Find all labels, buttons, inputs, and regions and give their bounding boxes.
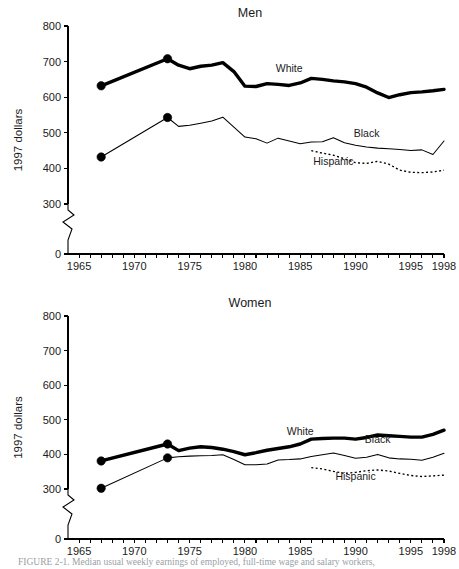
- series-label-black: Black: [365, 433, 391, 445]
- series-marker-black: [163, 113, 171, 121]
- panel-title: Men: [238, 6, 262, 20]
- series-marker-white: [163, 55, 171, 63]
- x-tick-label: 1980: [233, 545, 257, 555]
- y-tick-label: 400: [43, 448, 61, 460]
- x-tick-label: 1965: [67, 260, 91, 272]
- x-tick-label: 1990: [343, 545, 367, 555]
- y-axis-break-mark: [63, 489, 74, 539]
- y-axis-break-mark: [63, 204, 74, 254]
- series-label-white: White: [276, 62, 303, 74]
- series-marker-black: [97, 484, 105, 492]
- y-tick-label: 0: [55, 533, 61, 545]
- y-tick-label: 400: [43, 162, 61, 174]
- x-tick-label: 1985: [288, 260, 312, 272]
- y-tick-label: 600: [43, 91, 61, 103]
- chart-svg-women: 0300400500600700800196519701975198019851…: [0, 290, 459, 555]
- x-tick-label: 1975: [177, 545, 201, 555]
- y-axis-title: 1997 dollars: [12, 108, 24, 171]
- series-line-white: [101, 430, 444, 461]
- x-tick-label: 1970: [122, 260, 146, 272]
- x-tick-label: 1995: [399, 545, 423, 555]
- chart-panel-men: 0300400500600700800196519701975198019851…: [0, 0, 459, 290]
- x-tick-label: 1965: [67, 545, 91, 555]
- series-marker-white: [97, 82, 105, 90]
- panel-title: Women: [229, 296, 272, 310]
- series-marker-black: [163, 454, 171, 462]
- x-tick-label: 1975: [177, 260, 201, 272]
- series-marker-black: [97, 153, 105, 161]
- x-tick-label: 1998: [432, 260, 456, 272]
- x-tick-label: 1990: [343, 260, 367, 272]
- figure-container: 0300400500600700800196519701975198019851…: [0, 0, 459, 569]
- y-tick-label: 800: [43, 20, 61, 32]
- y-tick-label: 700: [43, 56, 61, 68]
- series-marker-white: [163, 440, 171, 448]
- series-label-hispanic: Hispanic: [313, 155, 353, 167]
- series-line-hispanic: [311, 468, 444, 477]
- y-tick-label: 600: [43, 379, 61, 391]
- y-tick-label: 300: [43, 198, 61, 210]
- x-tick-label: 1995: [399, 260, 423, 272]
- chart-svg-men: 0300400500600700800196519701975198019851…: [0, 0, 459, 290]
- y-tick-label: 800: [43, 310, 61, 322]
- x-tick-label: 1970: [122, 545, 146, 555]
- y-tick-label: 300: [43, 483, 61, 495]
- series-line-white: [101, 59, 444, 98]
- series-line-black: [101, 117, 444, 157]
- y-tick-label: 700: [43, 345, 61, 357]
- series-line-black: [101, 453, 444, 488]
- y-tick-label: 0: [55, 248, 61, 260]
- y-tick-label: 500: [43, 414, 61, 426]
- series-label-black: Black: [354, 127, 380, 139]
- chart-panel-women: 0300400500600700800196519701975198019851…: [0, 290, 459, 555]
- y-axis-title: 1997 dollars: [12, 396, 24, 459]
- series-marker-white: [97, 457, 105, 465]
- y-tick-label: 500: [43, 127, 61, 139]
- series-label-hispanic: Hispanic: [335, 470, 375, 482]
- figure-caption: FIGURE 2-1. Median usual weekly earnings…: [18, 556, 448, 568]
- x-tick-label: 1998: [432, 545, 456, 555]
- x-tick-label: 1985: [288, 545, 312, 555]
- x-tick-label: 1980: [233, 260, 257, 272]
- series-label-white: White: [287, 425, 314, 437]
